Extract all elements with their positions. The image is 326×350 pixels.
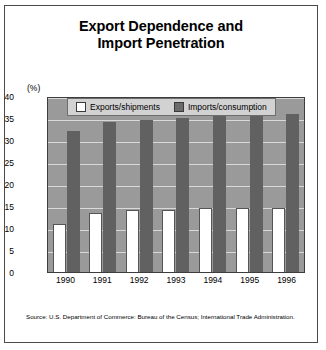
y-axis-tick-label: 20 bbox=[0, 180, 14, 190]
page-title: Export Dependence and Import Penetration bbox=[19, 18, 303, 52]
bar-imports-1996 bbox=[286, 114, 299, 272]
bar-imports-1990 bbox=[67, 131, 80, 272]
legend-swatch-exports-icon bbox=[76, 102, 86, 112]
legend-item-exports: Exports/shipments bbox=[76, 102, 160, 112]
bar-exports-1991 bbox=[89, 213, 102, 272]
bar-imports-1995 bbox=[250, 109, 263, 272]
bar-imports-1992 bbox=[140, 120, 153, 272]
y-axis-tick-label: 0 bbox=[0, 268, 14, 278]
chart-legend: Exports/shipments Imports/consumption bbox=[67, 98, 276, 116]
bar-imports-1994 bbox=[213, 114, 226, 272]
legend-swatch-imports-icon bbox=[174, 102, 184, 112]
x-axis-tick-label: 1991 bbox=[84, 275, 121, 285]
x-axis-tick-label: 1996 bbox=[268, 275, 305, 285]
y-axis-tick-label: 15 bbox=[0, 202, 14, 212]
legend-label-exports: Exports/shipments bbox=[90, 102, 160, 112]
bar-exports-1994 bbox=[199, 208, 212, 272]
x-axis-tick-label: 1994 bbox=[194, 275, 231, 285]
bar-group bbox=[272, 98, 299, 272]
bar-group bbox=[126, 98, 153, 272]
x-axis-tick-label: 1995 bbox=[231, 275, 268, 285]
x-axis-tick-label: 1990 bbox=[47, 275, 84, 285]
y-axis-tick-label: 5 bbox=[0, 246, 14, 256]
bar-imports-1991 bbox=[103, 122, 116, 272]
legend-item-imports: Imports/consumption bbox=[174, 102, 267, 112]
bar-group bbox=[53, 98, 80, 272]
x-axis-tick-label: 1993 bbox=[158, 275, 195, 285]
source-note: Source: U.S. Department of Commerce: Bur… bbox=[26, 312, 303, 321]
bar-group bbox=[236, 98, 263, 272]
y-axis-tick-label: 30 bbox=[0, 136, 14, 146]
bar-groups bbox=[48, 98, 304, 272]
bar-exports-1993 bbox=[162, 210, 175, 272]
y-axis-unit-label: (%) bbox=[27, 83, 40, 93]
legend-label-imports: Imports/consumption bbox=[188, 102, 267, 112]
bar-imports-1993 bbox=[176, 118, 189, 272]
bar-group bbox=[162, 98, 189, 272]
x-axis-tick-labels: 1990199119921993199419951996 bbox=[47, 275, 305, 285]
plot-area bbox=[47, 97, 305, 273]
title-line-1: Export Dependence and bbox=[79, 18, 243, 34]
y-axis-tick-label: 40 bbox=[0, 92, 14, 102]
bar-group bbox=[89, 98, 116, 272]
chart-area: (%) 0510152025303540 Exports/shipments I… bbox=[5, 78, 317, 308]
bar-exports-1990 bbox=[53, 224, 66, 272]
title-line-2: Import Penetration bbox=[19, 35, 303, 52]
y-axis-tick-label: 25 bbox=[0, 158, 14, 168]
x-axis-tick-label: 1992 bbox=[121, 275, 158, 285]
bar-exports-1996 bbox=[272, 208, 285, 272]
y-axis-tick-label: 10 bbox=[0, 224, 14, 234]
chart-figure: Export Dependence and Import Penetration… bbox=[4, 5, 318, 343]
y-axis-tick-label: 35 bbox=[0, 114, 14, 124]
bar-group bbox=[199, 98, 226, 272]
bar-exports-1995 bbox=[236, 208, 249, 272]
bar-exports-1992 bbox=[126, 210, 139, 272]
